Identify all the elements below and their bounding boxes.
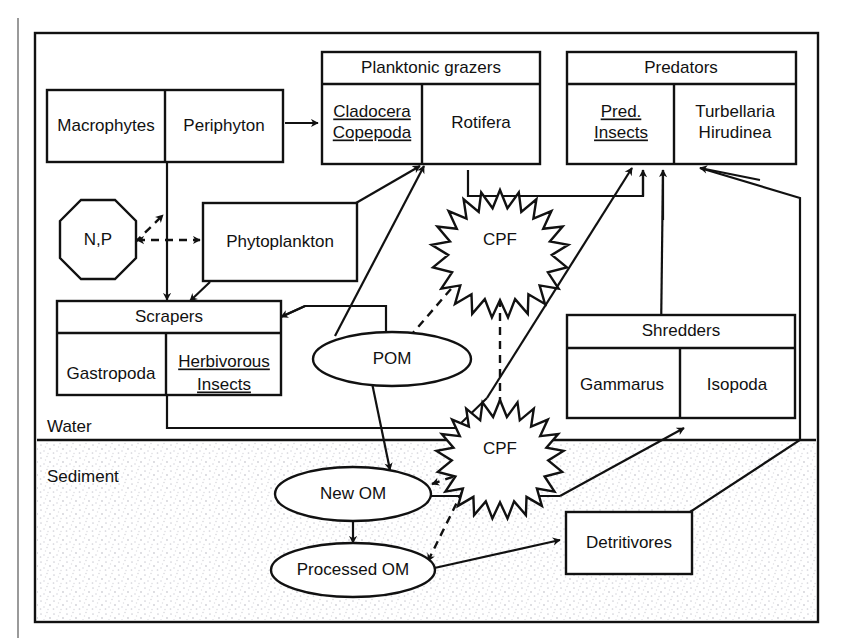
group-scrapers[interactable]: Scrapers Gastropoda Herbivorous Insects (57, 301, 281, 395)
box-label-phytoplankton: Phytoplankton (226, 232, 334, 251)
node-detritivores[interactable]: Detritivores (566, 512, 692, 574)
group-predators[interactable]: Predators Pred. Insects Turbellaria Hiru… (567, 52, 796, 164)
cell-label-gastropoda: Gastropoda (67, 364, 156, 383)
node-label-cpf-water: CPF (483, 230, 517, 249)
box-label-macrophytes: Macrophytes (57, 116, 154, 135)
cell-label-insects: Insects (594, 123, 648, 142)
group-header-planktonic-grazers: Planktonic grazers (361, 58, 501, 77)
producers-box-group: Macrophytes Periphyton (47, 90, 283, 162)
node-np[interactable]: N,P (60, 200, 136, 279)
cell-label-isopoda: Isopoda (707, 375, 768, 394)
node-label-cpf-sediment: CPF (483, 439, 517, 458)
group-header-scrapers: Scrapers (135, 307, 203, 326)
group-header-shredders: Shredders (642, 321, 720, 340)
cell-label-herbivorous: Herbivorous (178, 352, 270, 371)
cell-label-cladocera: Cladocera (333, 102, 411, 121)
node-phytoplankton[interactable]: Phytoplankton (203, 203, 357, 281)
cell-label-rotifera: Rotifera (451, 113, 511, 132)
zone-label-water: Water (47, 417, 92, 436)
node-label-np: N,P (84, 230, 112, 249)
group-header-predators: Predators (644, 58, 718, 77)
node-pom[interactable]: POM (313, 332, 471, 386)
cell-label-copepoda: Copepoda (333, 123, 412, 142)
node-processed-om[interactable]: Processed OM (271, 543, 435, 597)
node-label-pom: POM (373, 349, 412, 368)
group-planktonic-grazers[interactable]: Planktonic grazers Cladocera Copepoda Ro… (322, 52, 540, 164)
group-shredders[interactable]: Shredders Gammarus Isopoda (567, 315, 795, 418)
zone-label-sediment: Sediment (47, 467, 119, 486)
node-label-processedom: Processed OM (297, 560, 409, 579)
box-label-periphyton: Periphyton (183, 116, 264, 135)
cell-label-hirudinea: Hirudinea (699, 123, 772, 142)
cell-label-gammarus: Gammarus (580, 375, 664, 394)
box-label-detritivores: Detritivores (586, 533, 672, 552)
sediment-zone-fill (37, 440, 816, 620)
node-new-om[interactable]: New OM (275, 467, 431, 521)
cell-label-turbellaria: Turbellaria (695, 102, 775, 121)
diagram-canvas: Water Sediment (0, 0, 859, 644)
cell-label-insects-herb: Insects (197, 375, 251, 394)
node-label-newom: New OM (320, 484, 386, 503)
cell-label-pred: Pred. (601, 102, 642, 121)
food-web-diagram: Water Sediment (0, 0, 859, 644)
